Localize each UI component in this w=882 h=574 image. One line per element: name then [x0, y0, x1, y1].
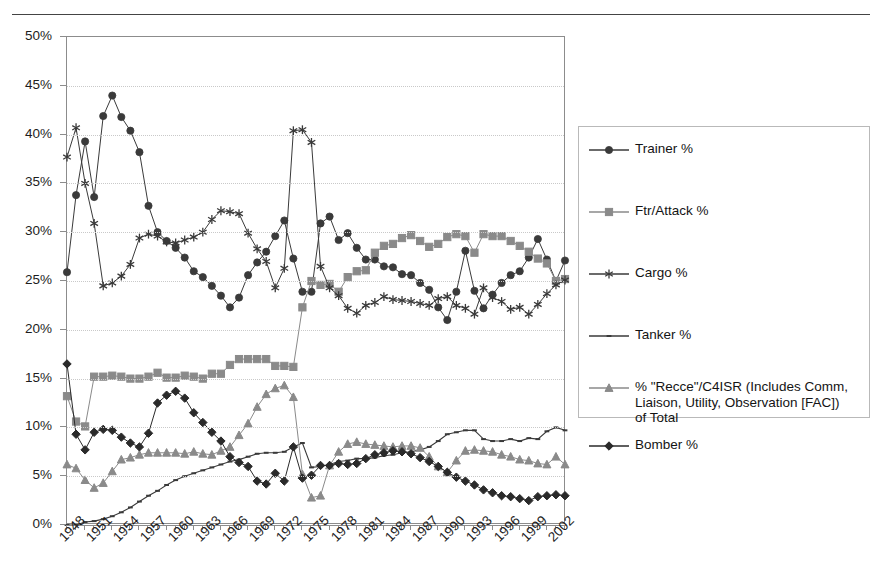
data-point-diamond: [63, 360, 71, 368]
data-point-dash: [264, 452, 269, 454]
legend-item[interactable]: % "Recce"/C4ISR (Includes Comm, Liaison,…: [587, 379, 848, 426]
data-point-square: [471, 249, 478, 256]
data-point-asterisk: [425, 301, 433, 310]
data-point-square: [344, 273, 351, 280]
legend-item[interactable]: Trainer %: [587, 141, 693, 158]
legend-marker-square-icon: [587, 204, 631, 220]
data-point-dash: [209, 466, 214, 468]
data-point-triangle: [470, 446, 478, 454]
gridline: [67, 281, 564, 282]
legend-item[interactable]: Ftr/Attack %: [587, 203, 709, 220]
data-point-dash: [463, 429, 468, 431]
data-point-circle: [127, 127, 134, 134]
data-point-circle: [226, 304, 233, 311]
data-point-circle: [109, 92, 116, 99]
data-point-circle: [353, 244, 360, 251]
data-point-circle: [272, 233, 279, 240]
data-point-circle: [100, 112, 107, 119]
data-point-square: [362, 267, 369, 274]
gridline: [67, 379, 564, 380]
data-point-dash: [200, 469, 205, 471]
data-point-square: [605, 208, 612, 215]
data-point-circle: [181, 254, 188, 261]
data-point-triangle: [253, 403, 261, 411]
data-point-circle: [190, 268, 197, 275]
data-point-dash: [544, 430, 549, 432]
data-point-asterisk: [136, 234, 144, 243]
data-point-circle: [263, 248, 270, 255]
data-point-dash: [427, 446, 432, 448]
data-point-diamond: [135, 443, 143, 451]
data-point-square: [435, 240, 442, 247]
data-point-square: [72, 418, 79, 425]
data-point-square: [489, 233, 496, 240]
data-point-diamond: [253, 477, 261, 485]
data-point-square: [525, 248, 532, 255]
data-point-triangle: [244, 419, 252, 427]
data-point-dash: [454, 431, 459, 433]
legend-label: Ftr/Attack %: [631, 203, 709, 219]
data-point-square: [516, 242, 523, 249]
data-point-dash: [535, 438, 540, 440]
y-axis-tick-mark: [60, 378, 66, 379]
data-point-asterisk: [371, 298, 379, 307]
data-point-circle: [534, 235, 541, 242]
data-point-dash: [517, 440, 522, 442]
data-point-circle: [63, 269, 70, 276]
plot-area: [66, 36, 565, 524]
y-axis-tick-label: 10%: [0, 419, 52, 433]
data-point-square: [317, 281, 324, 288]
y-axis-tick-mark: [60, 329, 66, 330]
data-point-circle: [389, 264, 396, 271]
data-point-square: [263, 355, 270, 362]
gridline: [67, 427, 564, 428]
data-point-circle: [444, 316, 451, 323]
data-point-triangle: [353, 438, 361, 446]
data-point-asterisk: [63, 153, 71, 162]
data-point-square: [235, 355, 242, 362]
data-point-square: [507, 237, 514, 244]
data-point-square: [534, 255, 541, 262]
data-point-dash: [563, 429, 568, 431]
data-point-asterisk: [498, 297, 506, 306]
data-point-dash: [490, 440, 495, 442]
gridline: [67, 183, 564, 184]
chart-legend: Trainer %Ftr/Attack %Cargo %Tanker %% "R…: [578, 126, 870, 418]
data-point-asterisk: [380, 292, 388, 301]
data-point-dash: [155, 490, 160, 492]
y-axis-tick-label: 35%: [0, 175, 52, 189]
data-point-diamond: [353, 459, 361, 467]
data-point-asterisk: [280, 264, 288, 273]
data-point-asterisk: [462, 304, 470, 313]
data-point-diamond: [525, 496, 533, 504]
data-point-diamond: [534, 492, 542, 500]
y-axis-tick-label: 45%: [0, 78, 52, 92]
legend-item[interactable]: Bomber %: [587, 437, 698, 454]
y-axis-tick-mark: [60, 134, 66, 135]
data-point-triangle: [262, 390, 270, 398]
legend-item[interactable]: Cargo %: [587, 265, 688, 282]
legend-item[interactable]: Tanker %: [587, 327, 691, 344]
data-point-diamond: [479, 486, 487, 494]
data-point-circle: [208, 282, 215, 289]
series-line: [67, 364, 565, 501]
data-point-circle: [217, 292, 224, 299]
data-point-diamond: [506, 492, 514, 500]
data-point-dash: [526, 437, 531, 439]
data-point-circle: [244, 272, 251, 279]
data-point-dash: [508, 438, 513, 440]
data-point-square: [389, 240, 396, 247]
y-axis-tick-mark: [60, 475, 66, 476]
legend-marker-circle-icon: [587, 142, 631, 158]
data-point-diamond: [72, 430, 80, 438]
data-point-asterisk: [362, 301, 370, 310]
data-point-circle: [335, 236, 342, 243]
data-point-dash: [481, 438, 486, 440]
y-axis-tick-label: 30%: [0, 224, 52, 238]
y-axis-tick-label: 5%: [0, 468, 52, 482]
data-point-circle: [516, 268, 523, 275]
data-point-asterisk: [507, 305, 515, 314]
data-point-triangle: [317, 492, 325, 500]
data-point-dash: [300, 442, 305, 444]
data-point-triangle: [217, 447, 225, 455]
